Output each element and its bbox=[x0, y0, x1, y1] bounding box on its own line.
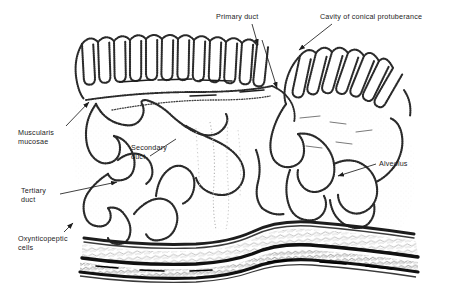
label-muscularis-mucosae: Muscularis mucosae bbox=[18, 128, 54, 146]
leader-oxynticopeptic bbox=[64, 223, 73, 232]
label-cavity-of-conical-protuberance: Cavity of conical protuberance bbox=[320, 12, 422, 21]
label-oxynticopeptic-cells: Oxynticopeptic cells bbox=[18, 234, 68, 252]
label-primary-duct: Primary duct bbox=[216, 12, 259, 21]
label-tertiary-duct: Tertiary duct bbox=[21, 186, 46, 204]
label-secondary-duct: Secondary duct bbox=[131, 143, 167, 161]
histology-figure: Primary duct Cavity of conical protubera… bbox=[0, 0, 450, 292]
leader-cavity bbox=[299, 24, 332, 50]
label-alveolus: Alveolus bbox=[379, 159, 408, 168]
